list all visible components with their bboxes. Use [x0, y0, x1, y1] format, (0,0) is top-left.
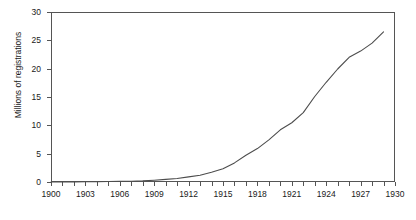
x-tick-mark [85, 182, 86, 186]
y-tick-label: 30 [19, 8, 41, 17]
y-tick-label: 20 [19, 65, 41, 74]
x-tick-mark [384, 182, 385, 186]
x-tick-mark [269, 182, 270, 186]
x-tick-mark [338, 182, 339, 186]
x-tick-mark [189, 182, 190, 186]
x-tick-mark [361, 182, 362, 186]
x-tick-mark [108, 182, 109, 186]
x-tick-mark [303, 182, 304, 186]
line-series-layer [51, 12, 395, 182]
x-tick-mark [395, 182, 396, 186]
x-tick-mark [349, 182, 350, 186]
x-tick-mark [200, 182, 201, 186]
x-tick-mark [223, 182, 224, 186]
x-tick-mark [326, 182, 327, 186]
y-tick-label: 5 [19, 150, 41, 159]
x-tick-mark [143, 182, 144, 186]
x-tick-mark [120, 182, 121, 186]
x-tick-mark [246, 182, 247, 186]
x-tick-mark [257, 182, 258, 186]
x-tick-mark [292, 182, 293, 186]
y-tick-label: 15 [19, 93, 41, 102]
x-tick-mark [51, 182, 52, 186]
y-tick-label: 0 [19, 178, 41, 187]
line-series-automobile-registrations [51, 32, 384, 182]
x-tick-mark [62, 182, 63, 186]
x-tick-mark [315, 182, 316, 186]
x-tick-mark [234, 182, 235, 186]
x-tick-mark [74, 182, 75, 186]
x-tick-mark [280, 182, 281, 186]
x-tick-mark [177, 182, 178, 186]
x-tick-mark [131, 182, 132, 186]
y-tick-label: 10 [19, 121, 41, 130]
y-tick-label: 25 [19, 36, 41, 45]
x-tick-mark [97, 182, 98, 186]
x-tick-mark [166, 182, 167, 186]
chart-container: Millions of registrations 051015202530 1… [0, 0, 416, 220]
x-tick-mark [154, 182, 155, 186]
x-tick-mark [212, 182, 213, 186]
x-tick-mark [372, 182, 373, 186]
x-tick-label: 1930 [375, 190, 415, 199]
